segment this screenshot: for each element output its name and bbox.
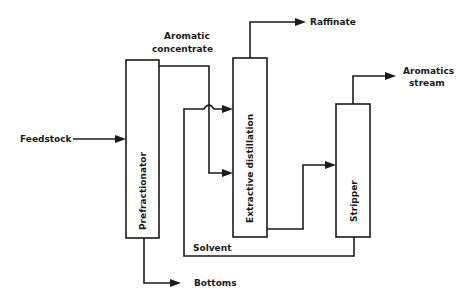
aromatic-concentrate-label-line1: Aromatic [164, 31, 210, 41]
stripper-column: Stripper [336, 104, 370, 237]
solvent-label: Solvent [193, 243, 232, 253]
rich-solvent-stream [267, 161, 336, 229]
aromatic-concentrate-line [159, 66, 225, 173]
bottoms-line [144, 238, 172, 283]
raffinate-arrow-icon [295, 18, 306, 26]
aromatics-stream-line [353, 76, 387, 104]
bottoms-arrow-icon [170, 279, 181, 287]
prefractionator-column: Prefractionator [126, 60, 159, 238]
rich-solvent-line [267, 165, 328, 229]
solvent-arrow-icon [222, 105, 233, 113]
extractive-distillation-column: Extractive distillation [233, 58, 267, 237]
bottoms-label: Bottoms [194, 278, 237, 288]
process-flow-diagram: Feedstock Aromatic concentrate Solvent B… [0, 0, 467, 298]
raffinate-stream: Raffinate [250, 17, 356, 58]
extractive-distillation-label: Extractive distillation [245, 114, 255, 223]
aromatic-concentrate-label-line2: concentrate [152, 44, 213, 54]
aromatics-stream-label-line2: stream [409, 78, 445, 88]
aromatics-stream-arrow-icon [385, 72, 396, 80]
rich-solvent-arrow-icon [325, 161, 336, 169]
feedstock-stream: Feedstock [20, 134, 126, 144]
feedstock-label: Feedstock [20, 134, 73, 144]
raffinate-label: Raffinate [310, 17, 356, 27]
aromatics-stream: Aromatics stream [353, 66, 454, 104]
raffinate-line [250, 22, 297, 58]
feedstock-arrow-icon [115, 135, 126, 143]
prefractionator-label: Prefractionator [138, 152, 148, 230]
aromatics-stream-label-line1: Aromatics [403, 66, 454, 76]
stripper-label: Stripper [349, 180, 359, 222]
aromatic-concentrate-stream: Aromatic concentrate [152, 31, 233, 177]
aromatic-concentrate-arrow-icon [222, 169, 233, 177]
